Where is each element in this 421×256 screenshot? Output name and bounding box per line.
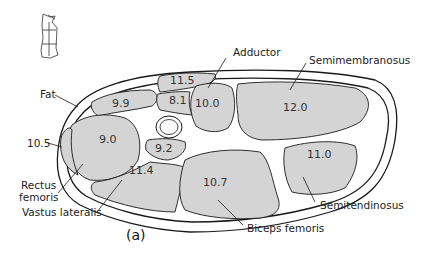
value-12-0: 12.0 (283, 102, 308, 113)
label-rectus-femoris-line2: femoris (19, 192, 59, 203)
value-11-0: 11.0 (307, 149, 332, 160)
label-10-5: 10.5 (27, 138, 50, 149)
panel-label: (a) (126, 228, 146, 242)
value-9-9: 9.9 (112, 98, 130, 109)
value-11-4: 11.4 (129, 165, 154, 176)
label-semimembranosus: Semimembranosus (309, 55, 410, 66)
value-9-0: 9.0 (99, 134, 117, 145)
value-11-5: 11.5 (170, 75, 195, 86)
label-rectus-femoris-line1: Rectus (21, 180, 56, 191)
label-fat: Fat (40, 89, 56, 100)
value-10-7: 10.7 (203, 177, 228, 188)
label-biceps-femoris: Biceps femoris (247, 223, 324, 234)
leg-locator-icon (41, 14, 58, 58)
value-9-2: 9.2 (155, 143, 173, 154)
value-10-0: 10.0 (195, 98, 220, 109)
femur-bone (156, 116, 182, 138)
value-8-1: 8.1 (169, 95, 187, 106)
label-adductor: Adductor (233, 47, 281, 58)
region-10-7 (180, 150, 279, 219)
label-semitendinosus: Semitendinosus (320, 200, 404, 211)
label-vastus-lateralis: Vastus lateralis (22, 207, 102, 218)
